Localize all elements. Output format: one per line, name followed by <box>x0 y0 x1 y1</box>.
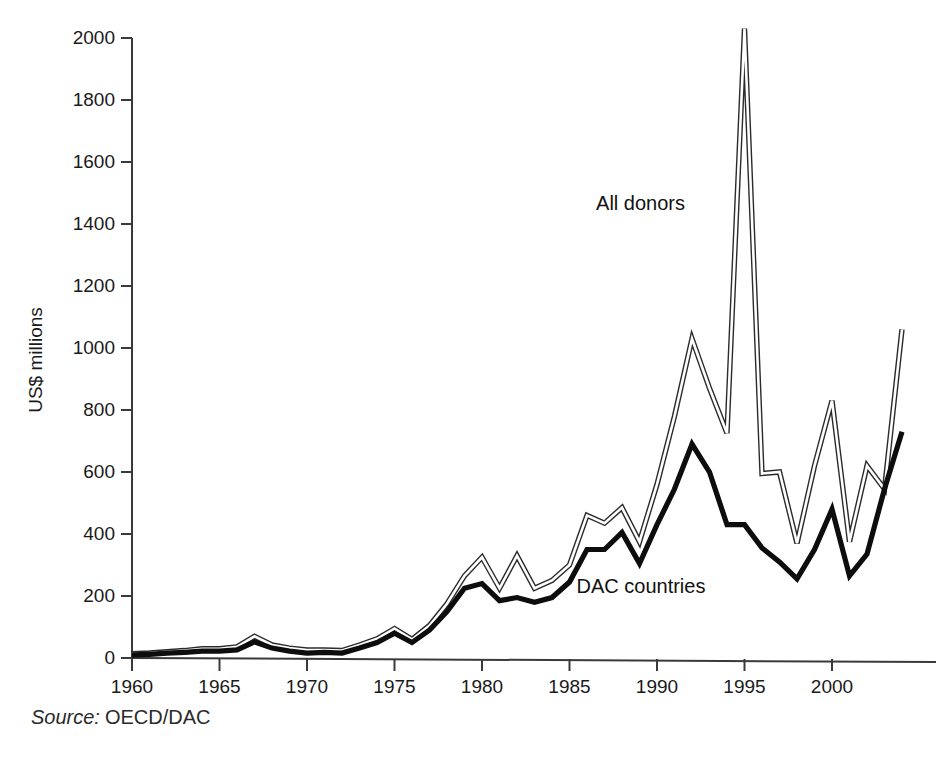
y-tick-label: 0 <box>104 647 115 668</box>
y-tick-label: 1800 <box>73 89 115 110</box>
y-tick-label: 600 <box>83 461 115 482</box>
x-tick-label: 1970 <box>286 676 328 697</box>
x-tick-label: 2000 <box>811 676 853 697</box>
line-chart-svg: 0200400600800100012001400160018002000 19… <box>0 0 946 768</box>
x-tick-label: 1965 <box>198 676 240 697</box>
chart-figure: 0200400600800100012001400160018002000 19… <box>0 0 946 768</box>
source-label: Source: <box>31 706 100 728</box>
x-tick-label: 1975 <box>373 676 415 697</box>
y-tick-label: 400 <box>83 523 115 544</box>
series-annotation-label: All donors <box>596 192 685 214</box>
x-tick-label: 1985 <box>548 676 590 697</box>
y-tick-label: 2000 <box>73 27 115 48</box>
source-value: OECD/DAC <box>105 706 211 728</box>
y-tick-label: 1600 <box>73 151 115 172</box>
x-tick-label: 1995 <box>723 676 765 697</box>
y-tick-label: 800 <box>83 399 115 420</box>
y-tick-label: 1000 <box>73 337 115 358</box>
y-tick-label: 200 <box>83 585 115 606</box>
x-tick-label: 1960 <box>111 676 153 697</box>
y-tick-label: 1200 <box>73 275 115 296</box>
y-axis-title: US$ millions <box>25 307 46 413</box>
x-tick-label: 1980 <box>461 676 503 697</box>
x-tick-label: 1990 <box>636 676 678 697</box>
y-tick-label: 1400 <box>73 213 115 234</box>
series-annotation-label: DAC countries <box>577 575 706 597</box>
source-note: Source:OECD/DAC <box>31 706 211 729</box>
